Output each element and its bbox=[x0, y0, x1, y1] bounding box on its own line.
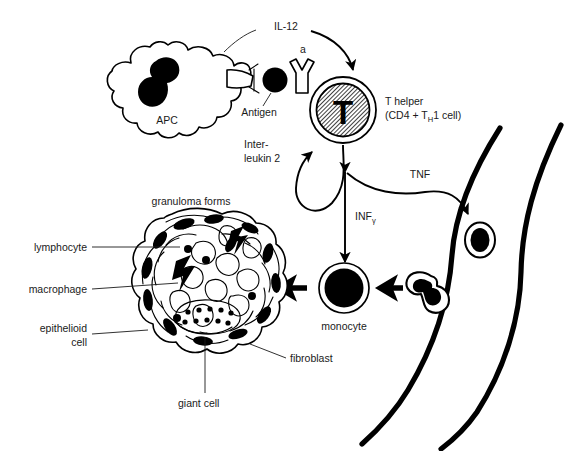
t-helper-cd4-suffix: 1 cell) bbox=[433, 109, 461, 121]
il12-label: IL-12 bbox=[274, 20, 298, 32]
infgamma-label: INFγ bbox=[355, 210, 376, 225]
diagram-canvas: APC Antigen T T helper (CD4 + TH1 cell) … bbox=[0, 0, 583, 451]
antigen-leader-line bbox=[263, 93, 271, 106]
infgamma-subscript: γ bbox=[372, 216, 376, 225]
t-helper-cd4-prefix: (CD4 + T bbox=[385, 109, 428, 121]
epithelioid-leader-line bbox=[92, 330, 148, 334]
t-cell-letter: T bbox=[333, 94, 353, 131]
cell-crossing-vessel-wall bbox=[406, 272, 449, 313]
antigen-presenting-cell bbox=[107, 42, 259, 138]
annotation-a-label: a bbox=[300, 43, 306, 55]
monocyte-label: monocyte bbox=[321, 320, 367, 332]
granuloma-forms-label: granuloma forms bbox=[152, 195, 231, 207]
granuloma-diagram: APC Antigen T T helper (CD4 + TH1 cell) … bbox=[0, 0, 583, 451]
fibroblast-leader-line bbox=[250, 344, 286, 358]
antigen-particle bbox=[263, 68, 288, 93]
lymphocyte-label: lymphocyte bbox=[34, 241, 87, 253]
interleukin2-arrow bbox=[296, 145, 344, 211]
il12-leader-line bbox=[224, 30, 256, 52]
epithelioid-label-line1: epithelioid bbox=[40, 322, 87, 334]
epithelioid-label-line2: cell bbox=[71, 336, 87, 348]
giant-cell-label: giant cell bbox=[178, 397, 219, 409]
t-cell-receptor-icon bbox=[290, 59, 314, 93]
infgamma-main: INF bbox=[355, 210, 372, 222]
cell-inside-vessel bbox=[465, 223, 495, 258]
tnf-label: TNF bbox=[410, 168, 430, 180]
t-helper-label-line1: T helper bbox=[385, 95, 424, 107]
t-helper-label-line2: (CD4 + TH1 cell) bbox=[385, 109, 461, 124]
antigen-label: Antigen bbox=[241, 106, 277, 118]
t-helper-cell: T bbox=[310, 77, 376, 143]
apc-label: APC bbox=[156, 114, 178, 126]
fibroblast-label: fibroblast bbox=[290, 352, 333, 364]
interleukin2-label-line1: Inter- bbox=[244, 138, 269, 150]
tnf-arrow bbox=[347, 173, 468, 214]
monocyte-cell bbox=[319, 263, 369, 313]
il12-arrow bbox=[311, 31, 353, 70]
granuloma-cluster bbox=[132, 208, 287, 353]
macrophage-label: macrophage bbox=[29, 283, 88, 295]
interleukin2-label-line2: leukin 2 bbox=[244, 152, 280, 164]
